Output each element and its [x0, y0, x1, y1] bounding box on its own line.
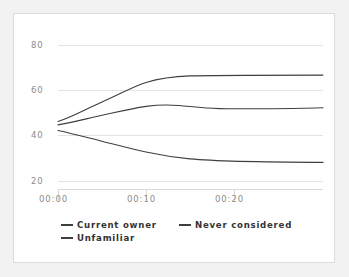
- line-chart: 80 60 40 20 00:00 00:10 00:20: [14, 14, 336, 264]
- legend-item-unfamiliar[interactable]: Unfamiliar: [61, 233, 135, 243]
- y-tick-label-60: 60: [31, 85, 44, 95]
- series-lines: [58, 75, 323, 162]
- gridlines: [58, 45, 323, 181]
- y-tick-label-40: 40: [31, 130, 44, 140]
- x-tick-label-20: 00:20: [215, 194, 244, 204]
- chart-legend: Current owner Never considered Unfamilia…: [61, 220, 292, 243]
- legend-label-never-considered: Never considered: [195, 220, 292, 230]
- legend-label-unfamiliar: Unfamiliar: [77, 233, 135, 243]
- legend-label-current-owner: Current owner: [77, 220, 157, 230]
- series-line-never-considered: [58, 105, 323, 125]
- x-tick-label-10: 00:10: [127, 194, 156, 204]
- x-axis: [58, 189, 323, 200]
- legend-item-current-owner[interactable]: Current owner: [61, 220, 157, 230]
- y-tick-label-20: 20: [31, 176, 44, 186]
- series-line-current-owner: [58, 75, 323, 121]
- x-axis-labels: 00:00 00:10 00:20: [39, 194, 244, 204]
- x-tick-label-0: 00:00: [39, 194, 68, 204]
- y-tick-label-80: 80: [31, 40, 44, 50]
- chart-card: 80 60 40 20 00:00 00:10 00:20: [13, 13, 335, 263]
- y-axis-labels: 80 60 40 20: [31, 40, 44, 186]
- legend-item-never-considered[interactable]: Never considered: [179, 220, 292, 230]
